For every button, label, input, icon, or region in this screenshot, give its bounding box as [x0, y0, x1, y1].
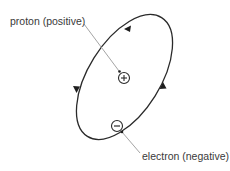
atom-diagram: proton (positive) electron (negative): [0, 0, 230, 171]
electron-icon: [112, 121, 123, 132]
orbit-arrow-top-icon: [124, 26, 131, 33]
electron-label: electron (negative): [142, 150, 229, 162]
proton-leader-line: [84, 24, 119, 71]
proton-label: proton (positive): [10, 15, 85, 27]
electron-leader-line: [122, 132, 140, 153]
proton-icon: [119, 73, 130, 84]
electron-leader-dot: [121, 131, 124, 134]
proton-leader-dot: [118, 70, 121, 73]
